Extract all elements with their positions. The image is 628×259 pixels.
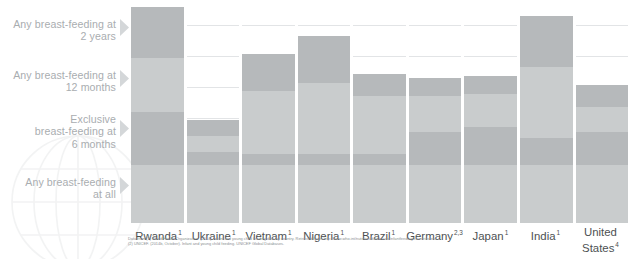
bar-segment — [131, 58, 184, 112]
bar-column[interactable] — [353, 0, 409, 223]
bar-column[interactable] — [520, 0, 576, 223]
bar-segment — [187, 136, 240, 152]
bar-segment — [464, 76, 517, 94]
bar-segment — [520, 138, 573, 165]
bar-segment — [298, 165, 351, 223]
bar-segment — [187, 152, 240, 165]
bar-segment — [131, 165, 184, 223]
bar-segment — [298, 154, 351, 165]
chevron-right-icon-2-years — [120, 19, 131, 36]
bar-group — [131, 0, 628, 223]
axis-label-exclusive-6-months: Exclusive breast-feeding at 6 months — [4, 113, 116, 150]
chevron-right-icon-at-all — [120, 177, 131, 194]
bar-segment — [242, 154, 295, 165]
bar-segment — [464, 165, 517, 223]
axis-label-any-2-years: Any breast-feeding at 2 years — [4, 18, 116, 43]
source-notes: Data from (1) World Health Organization.… — [128, 236, 598, 247]
bar-segment — [298, 83, 351, 154]
chevron-right-icon-12-months — [120, 70, 131, 87]
chevron-right-icon-6-months — [120, 120, 131, 137]
source-note-2: (2) UNICEF. (2014b, October). Infant and… — [128, 241, 598, 246]
bar-segment — [464, 127, 517, 165]
bar-segment — [464, 94, 517, 127]
breastfeeding-stacked-bar-chart: Any breast-feeding at 2 years Any breast… — [0, 0, 628, 259]
bar-column[interactable] — [464, 0, 520, 223]
bar-segment — [187, 120, 240, 136]
bar-column[interactable] — [242, 0, 298, 223]
bar-segment — [576, 85, 628, 107]
bar-segment — [576, 132, 628, 165]
bar-segment — [520, 67, 573, 138]
bar-column[interactable] — [409, 0, 465, 223]
bar-segment — [520, 16, 573, 67]
bar-segment — [353, 96, 406, 154]
bar-column[interactable] — [576, 0, 628, 223]
bar-segment — [242, 91, 295, 153]
bar-segment — [187, 165, 240, 223]
bar-segment — [131, 112, 184, 166]
bar-segment — [409, 132, 462, 165]
bar-segment — [353, 154, 406, 165]
plot-area — [131, 0, 628, 223]
axis-label-any-12-months: Any breast-feeding at 12 months — [4, 69, 116, 94]
bar-segment — [409, 78, 462, 96]
bar-segment — [242, 165, 295, 223]
bar-segment — [353, 74, 406, 96]
bar-segment — [131, 7, 184, 58]
bar-segment — [576, 165, 628, 223]
bar-segment — [353, 165, 406, 223]
bar-segment — [242, 54, 295, 92]
bar-segment — [520, 165, 573, 223]
bar-column[interactable] — [131, 0, 187, 223]
bar-column[interactable] — [298, 0, 354, 223]
category-axis-labels: Any breast-feeding at 2 years Any breast… — [0, 0, 131, 223]
axis-label-any-at-all: Any breast-feeding at all — [4, 176, 116, 201]
bar-segment — [576, 107, 628, 132]
bar-segment — [409, 165, 462, 223]
bar-segment — [298, 36, 351, 83]
bar-segment — [409, 96, 462, 132]
bar-column[interactable] — [187, 0, 243, 223]
